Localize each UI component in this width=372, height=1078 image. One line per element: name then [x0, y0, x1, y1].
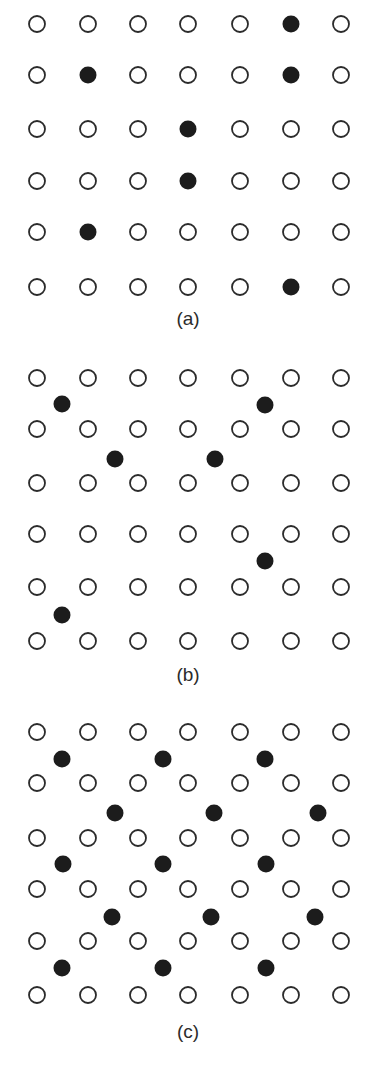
open-site-circle — [80, 881, 96, 897]
filled-site-dot — [180, 121, 197, 138]
interstitial-dot — [54, 607, 71, 624]
filled-site-dot — [283, 279, 300, 296]
open-site-circle — [283, 579, 299, 595]
open-site-circle — [232, 830, 248, 846]
open-site-circle — [283, 830, 299, 846]
open-site-circle — [29, 370, 45, 386]
open-site-circle — [80, 121, 96, 137]
open-site-circle — [29, 933, 45, 949]
open-site-circle — [180, 279, 196, 295]
filled-site-dot — [80, 224, 97, 241]
open-site-circle — [29, 475, 45, 491]
interstitial-dot — [155, 960, 172, 977]
open-site-circle — [283, 370, 299, 386]
open-site-circle — [180, 579, 196, 595]
open-site-circle — [180, 526, 196, 542]
open-site-circle — [180, 881, 196, 897]
interstitial-dot — [155, 856, 172, 873]
open-site-circle — [130, 933, 146, 949]
open-site-circle — [333, 526, 349, 542]
open-site-circle — [180, 724, 196, 740]
open-site-circle — [80, 173, 96, 189]
open-site-circle — [333, 933, 349, 949]
open-site-circle — [80, 933, 96, 949]
open-site-circle — [283, 526, 299, 542]
open-site-circle — [180, 933, 196, 949]
open-site-circle — [333, 173, 349, 189]
open-site-circle — [130, 724, 146, 740]
interstitial-dot — [104, 909, 121, 926]
open-site-circle — [29, 881, 45, 897]
open-site-circle — [333, 224, 349, 240]
interstitial-dot — [310, 805, 327, 822]
open-site-circle — [180, 830, 196, 846]
open-site-circle — [29, 830, 45, 846]
open-site-circle — [130, 121, 146, 137]
open-site-circle — [80, 987, 96, 1003]
open-site-circle — [80, 633, 96, 649]
open-site-circle — [283, 421, 299, 437]
open-site-circle — [29, 633, 45, 649]
open-site-circle — [232, 121, 248, 137]
open-site-circle — [80, 775, 96, 791]
interstitial-dot — [55, 856, 72, 873]
open-site-circle — [80, 16, 96, 32]
filled-site-dot — [283, 67, 300, 84]
open-site-circle — [333, 987, 349, 1003]
open-site-circle — [232, 933, 248, 949]
open-site-circle — [333, 67, 349, 83]
panel-a-label: (a) — [158, 308, 218, 330]
open-site-circle — [29, 173, 45, 189]
panel-c-lattice — [29, 724, 349, 1003]
open-site-circle — [333, 16, 349, 32]
open-site-circle — [283, 633, 299, 649]
open-site-circle — [232, 724, 248, 740]
open-site-circle — [333, 881, 349, 897]
open-site-circle — [80, 579, 96, 595]
open-site-circle — [283, 173, 299, 189]
filled-site-dot — [80, 67, 97, 84]
open-site-circle — [29, 421, 45, 437]
lattice-figure — [0, 0, 372, 1078]
open-site-circle — [130, 224, 146, 240]
open-site-circle — [283, 881, 299, 897]
interstitial-dot — [257, 397, 274, 414]
open-site-circle — [180, 224, 196, 240]
open-site-circle — [232, 16, 248, 32]
panel-b-lattice — [29, 370, 349, 649]
interstitial-dot — [155, 751, 172, 768]
interstitial-dot — [54, 960, 71, 977]
open-site-circle — [130, 67, 146, 83]
open-site-circle — [232, 579, 248, 595]
open-site-circle — [283, 224, 299, 240]
open-site-circle — [29, 775, 45, 791]
open-site-circle — [232, 67, 248, 83]
open-site-circle — [80, 830, 96, 846]
open-site-circle — [29, 121, 45, 137]
open-site-circle — [333, 633, 349, 649]
open-site-circle — [232, 987, 248, 1003]
open-site-circle — [130, 633, 146, 649]
open-site-circle — [130, 475, 146, 491]
open-site-circle — [29, 224, 45, 240]
open-site-circle — [180, 16, 196, 32]
interstitial-dot — [207, 451, 224, 468]
open-site-circle — [232, 881, 248, 897]
interstitial-dot — [307, 909, 324, 926]
open-site-circle — [29, 526, 45, 542]
open-site-circle — [232, 173, 248, 189]
open-site-circle — [180, 67, 196, 83]
open-site-circle — [180, 987, 196, 1003]
interstitial-dot — [203, 909, 220, 926]
open-site-circle — [333, 579, 349, 595]
open-site-circle — [130, 830, 146, 846]
open-site-circle — [29, 579, 45, 595]
open-site-circle — [333, 121, 349, 137]
interstitial-dot — [257, 751, 274, 768]
open-site-circle — [80, 724, 96, 740]
interstitial-dot — [54, 396, 71, 413]
open-site-circle — [333, 830, 349, 846]
open-site-circle — [232, 421, 248, 437]
open-site-circle — [29, 987, 45, 1003]
open-site-circle — [333, 475, 349, 491]
